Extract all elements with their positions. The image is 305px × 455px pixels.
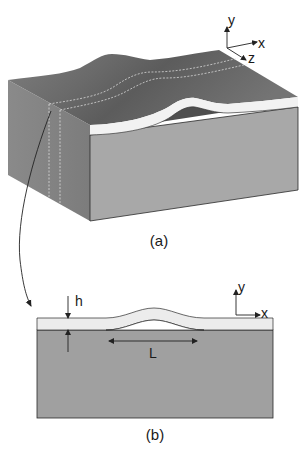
panel-b-section xyxy=(37,308,273,418)
length-label: L xyxy=(149,345,157,361)
diagram-canvas: y x z (a) h L y x (b) xyxy=(0,0,305,455)
axes-2d: y x xyxy=(236,279,268,321)
panel-a-block xyxy=(8,50,298,221)
axis-x-label-3d: x xyxy=(258,35,265,51)
axis-y-label-3d: y xyxy=(228,12,235,28)
axis-z-label-3d: z xyxy=(248,50,255,66)
thickness-label: h xyxy=(75,293,83,309)
caption-a: (a) xyxy=(150,232,168,249)
axis-x-label-2d: x xyxy=(261,305,268,321)
axes-3d: y x z xyxy=(227,12,265,66)
caption-b: (b) xyxy=(146,426,164,443)
axis-y-label-2d: y xyxy=(238,279,245,295)
figure: y x z (a) h L y x (b) xyxy=(0,0,305,455)
axis-x-3d xyxy=(227,42,257,48)
substrate-b xyxy=(37,330,273,418)
